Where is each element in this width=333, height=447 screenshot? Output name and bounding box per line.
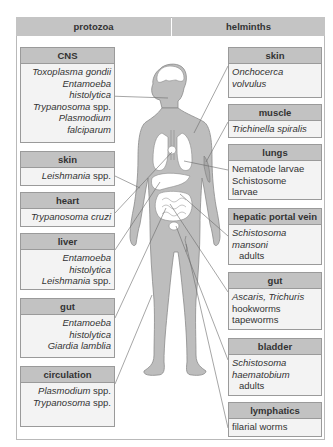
- organism-list: Trypanosoma cruzi: [21, 209, 114, 225]
- organism-name: Trypanosoma: [33, 101, 90, 112]
- organism-qualifier: spp.: [90, 275, 111, 286]
- organism-name: volvulus: [232, 78, 266, 89]
- site-label: hepatic portal vein: [229, 209, 321, 225]
- organism-name: Plasmodium: [59, 112, 111, 123]
- organism-line: Ascaris, Trichuris: [232, 291, 318, 303]
- organism-line: histolytica: [24, 264, 111, 276]
- site-label: bladder: [229, 339, 321, 355]
- organism-line: Trypanosoma cruzi: [24, 211, 111, 223]
- organism-name: Entamoeba: [62, 317, 111, 328]
- organism-list: Trichinella spiralis: [229, 121, 321, 137]
- helminth-box-gut: gut Ascaris, Trichurishookwormstapeworms: [228, 272, 322, 330]
- organism-line: mansoni: [232, 239, 318, 251]
- protozoa-box-skin: skin Leishmania spp.: [20, 151, 115, 186]
- organism-line: histolytica: [24, 329, 111, 341]
- site-label: skin: [21, 152, 114, 168]
- organism-line: Trypanosoma spp.: [24, 397, 111, 409]
- organism-qualifier: tapeworms: [232, 314, 278, 325]
- protozoa-box-circulation: circulation Plasmodium spp.Trypanosoma s…: [20, 366, 115, 427]
- site-label: heart: [21, 193, 114, 209]
- organism-line: Plasmodium spp.: [24, 385, 111, 397]
- organism-name: Schistosoma: [232, 357, 286, 368]
- organism-line: Trypanosoma spp.: [24, 101, 111, 113]
- organism-name: Ascaris, Trichuris: [232, 291, 304, 302]
- organism-line: Trichinella spiralis: [232, 123, 318, 135]
- organism-qualifier: spp.: [90, 397, 111, 408]
- organism-name: histolytica: [69, 89, 111, 100]
- site-label: lymphatics: [229, 403, 321, 419]
- organism-name: Leishmania: [42, 275, 91, 286]
- organism-line: larvae: [232, 186, 318, 198]
- organism-line: volvulus: [232, 78, 318, 90]
- organism-qualifier: adults: [239, 250, 264, 261]
- organism-line: haematobium: [232, 369, 318, 381]
- organism-list: Nematode larvaeSchistosomelarvae: [229, 161, 321, 200]
- heart: [168, 146, 176, 154]
- organism-line: Entamoeba: [24, 78, 111, 90]
- organism-list: Onchocercavolvulus: [229, 64, 321, 91]
- organism-line: Schistosoma: [232, 357, 318, 369]
- intestines: [155, 191, 192, 221]
- organism-name: Trichinella spiralis: [232, 123, 307, 134]
- organism-line: adults: [232, 250, 318, 262]
- organism-qualifier: spp.: [90, 101, 111, 112]
- helminth-box-lungs: lungs Nematode larvaeSchistosomelarvae: [228, 144, 322, 200]
- organism-list: Schistosomahaematobiumadults: [229, 355, 321, 394]
- site-label: skin: [229, 48, 321, 64]
- organism-list: Plasmodium spp.Trypanosoma spp.: [21, 383, 114, 410]
- helminth-box-bladder: bladder Schistosomahaematobiumadults: [228, 338, 322, 396]
- organism-line: hookworms: [232, 303, 318, 315]
- organism-line: Schistosome: [232, 175, 318, 187]
- organism-line: histolytica: [24, 89, 111, 101]
- organism-name: mansoni: [232, 239, 268, 250]
- helminth-box-muscle: muscle Trichinella spiralis: [228, 104, 322, 138]
- protozoa-box-cns: CNS Toxoplasma gondiiEntamoebahistolytic…: [20, 47, 115, 143]
- site-label: gut: [21, 299, 114, 315]
- site-label: liver: [21, 234, 114, 250]
- organism-name: Trypanosoma cruzi: [31, 211, 111, 222]
- organism-qualifier: larvae: [232, 186, 258, 197]
- organism-line: adults: [232, 380, 318, 392]
- site-label: CNS: [21, 48, 114, 64]
- organism-name: Plasmodium: [38, 385, 90, 396]
- organism-name: Schistosoma: [232, 227, 286, 238]
- protozoa-box-heart: heart Trypanosoma cruzi: [20, 192, 115, 227]
- protozoa-box-liver: liver EntamoebahistolyticaLeishmania spp…: [20, 233, 115, 290]
- helminth-box-skin: skin Onchocercavolvulus: [228, 47, 322, 98]
- organism-qualifier: adults: [239, 380, 264, 391]
- organism-list: EntamoebahistolyticaGiardia lamblia: [21, 315, 114, 354]
- organism-list: Leishmania spp.: [21, 168, 114, 184]
- bladder: [169, 222, 179, 230]
- organism-name: haematobium: [232, 369, 290, 380]
- organism-name: Entamoeba: [62, 252, 111, 263]
- organism-qualifier: spp.: [90, 385, 111, 396]
- site-label: lungs: [229, 145, 321, 161]
- organism-name: histolytica: [69, 329, 111, 340]
- organism-name: Leishmania: [42, 170, 91, 181]
- organism-qualifier: filarial worms: [232, 421, 287, 432]
- helminth-box-hepatic-portal-vein: hepatic portal vein Schistosomamansoniad…: [228, 208, 322, 265]
- protozoa-box-gut: gut EntamoebahistolyticaGiardia lamblia: [20, 298, 115, 358]
- organism-line: falciparum: [24, 124, 111, 136]
- organism-line: Leishmania spp.: [24, 170, 111, 182]
- organism-qualifier: Nematode larvae: [232, 163, 304, 174]
- organism-name: Entamoeba: [62, 78, 111, 89]
- organism-line: Toxoplasma gondii: [24, 66, 111, 78]
- organism-line: Nematode larvae: [232, 163, 318, 175]
- organism-line: filarial worms: [232, 421, 318, 433]
- organism-list: Ascaris, Trichurishookwormstapeworms: [229, 289, 321, 328]
- organism-line: Giardia lamblia: [24, 340, 111, 352]
- site-label: circulation: [21, 367, 114, 383]
- organism-name: histolytica: [69, 264, 111, 275]
- organism-line: Entamoeba: [24, 317, 111, 329]
- organism-name: falciparum: [67, 124, 111, 135]
- organism-line: Plasmodium: [24, 112, 111, 124]
- organism-qualifier: hookworms: [232, 303, 281, 314]
- site-label: gut: [229, 273, 321, 289]
- organism-name: Giardia lamblia: [48, 340, 111, 351]
- organism-line: tapeworms: [232, 314, 318, 326]
- organism-line: Leishmania spp.: [24, 275, 111, 287]
- organism-name: Toxoplasma gondii: [32, 66, 111, 77]
- helminth-box-lymphatics: lymphatics filarial worms: [228, 402, 322, 437]
- organism-list: filarial worms: [229, 419, 321, 435]
